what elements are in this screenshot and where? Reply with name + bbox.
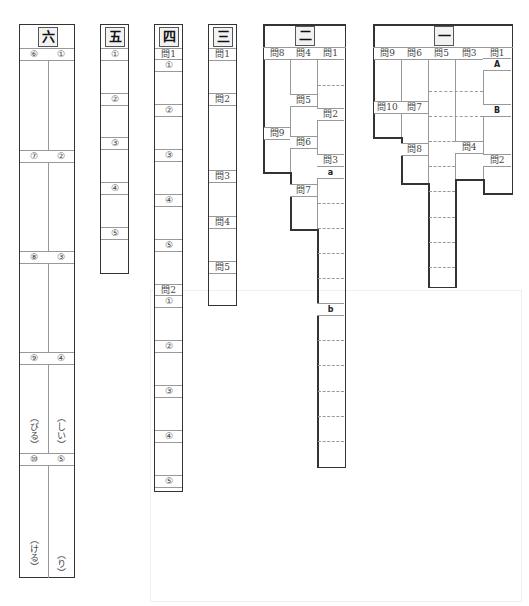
- label: 問6: [401, 47, 428, 60]
- section-four-title: 四: [159, 27, 179, 47]
- label: 問2: [209, 93, 236, 106]
- label: 問2: [317, 108, 344, 121]
- dashed-line: [429, 267, 455, 268]
- column-divider: [48, 48, 49, 578]
- border: [455, 179, 457, 288]
- label: ④: [101, 182, 128, 195]
- dashed-line: [318, 278, 344, 279]
- dashed-line: [429, 91, 483, 92]
- suffix-text: （り）: [55, 550, 68, 577]
- border: [263, 172, 291, 174]
- label: 問8: [264, 47, 290, 60]
- suffix-text: （ける）: [28, 535, 41, 571]
- section-six: 六 ⑥ ① ⑦ ② ⑧ ③ ⑨ ④ ⑩ ⑤ （びる） （しい） （ける） （り）: [19, 24, 75, 578]
- section-five: 五 ① ② ③ ④ ⑤: [100, 24, 129, 274]
- label: 問1: [209, 48, 236, 61]
- dashed-line: [318, 340, 344, 341]
- dashed-line: [318, 228, 344, 229]
- label: 問2: [483, 154, 511, 167]
- label: ③: [155, 385, 182, 398]
- label: 問5: [209, 261, 236, 274]
- label: ③: [101, 137, 128, 150]
- dashed-line: [318, 365, 344, 366]
- dashed-line: [429, 166, 455, 167]
- border: [290, 229, 318, 231]
- label: 問7: [401, 101, 428, 114]
- column-divider: [290, 47, 291, 172]
- label: a: [317, 166, 344, 179]
- border: [455, 179, 484, 181]
- border: [317, 229, 319, 468]
- label: 問7: [290, 184, 317, 197]
- dashed-line: [429, 141, 455, 142]
- label: 問5: [428, 47, 455, 60]
- dashed-line: [318, 391, 344, 392]
- column-divider: [455, 47, 456, 179]
- dashed-line: [429, 116, 483, 117]
- column-divider: [428, 47, 429, 183]
- section-one: 一 問9 問6 問5 問3 問1 A 問10 問7 B 問8 問4 問2: [373, 24, 513, 288]
- label: ③: [48, 251, 74, 264]
- border: [512, 24, 514, 195]
- label: ②: [155, 104, 182, 117]
- label: ①: [48, 48, 74, 61]
- section-one-title: 一: [434, 26, 454, 46]
- label: ⑦: [20, 150, 48, 163]
- section-four: 四 問1 ① ② ③ ④ ⑤ 問2 ① ② ③ ④ ⑤: [154, 24, 183, 492]
- dashed-line: [318, 85, 344, 86]
- section-two: 二 問8 問4 問1 問5 問2 問9 問6 問3 a 問7 b: [263, 24, 346, 468]
- border: [373, 24, 375, 138]
- border: [345, 24, 347, 468]
- label: 問4: [455, 141, 483, 154]
- label: ②: [155, 340, 182, 353]
- label: ④: [155, 194, 182, 207]
- label: ⑤: [155, 239, 182, 252]
- label: ②: [101, 93, 128, 106]
- section-three-header: 三: [209, 25, 236, 49]
- section-five-title: 五: [105, 27, 125, 47]
- border: [428, 183, 430, 288]
- border: [317, 467, 346, 469]
- label: ①: [155, 59, 182, 72]
- border: [483, 193, 513, 195]
- section-two-title: 二: [295, 26, 315, 46]
- suffix-text: （しい）: [55, 413, 68, 449]
- label: ②: [48, 150, 74, 163]
- label: 問5: [290, 94, 317, 107]
- section-three-title: 三: [213, 27, 233, 47]
- label: b: [317, 303, 344, 316]
- dashed-line: [318, 253, 344, 254]
- label: ④: [48, 352, 74, 365]
- section-three: 三 問1 問2 問3 問4 問5: [208, 24, 237, 306]
- label: ⑩: [20, 453, 48, 466]
- dashed-line: [318, 441, 344, 442]
- label: ④: [155, 430, 182, 443]
- border: [401, 183, 429, 185]
- label: ⑤: [101, 227, 128, 240]
- label: 問6: [290, 136, 317, 149]
- label: B: [483, 104, 511, 117]
- label: 問10: [374, 101, 401, 114]
- dashed-line: [318, 203, 344, 204]
- label: A: [483, 58, 511, 71]
- label: 問9: [264, 127, 290, 140]
- border: [428, 287, 456, 289]
- section-four-header: 四: [155, 25, 182, 49]
- label: 問3: [209, 170, 236, 183]
- dashed-line: [429, 242, 455, 243]
- border: [373, 137, 402, 139]
- section-five-header: 五: [101, 25, 128, 49]
- border: [483, 179, 485, 194]
- column-divider: [317, 47, 318, 229]
- label: ③: [155, 149, 182, 162]
- section-six-header: 六: [20, 25, 74, 49]
- dashed-line: [429, 191, 455, 192]
- label: ⑤: [48, 453, 74, 466]
- label: 問9: [374, 47, 401, 60]
- label: ⑤: [155, 475, 182, 488]
- suffix-text: （びる）: [28, 413, 41, 449]
- label: ①: [155, 295, 182, 308]
- label: 問4: [209, 216, 236, 229]
- border: [290, 172, 292, 230]
- label: 問8: [401, 143, 428, 156]
